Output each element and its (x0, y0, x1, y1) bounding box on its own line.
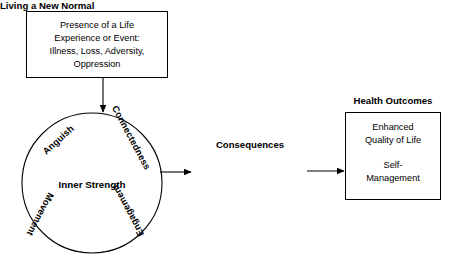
health-outcome-line-3: Self- (384, 159, 403, 172)
health-outcome-line-2: Quality of Life (365, 134, 421, 147)
inner-strength-center-label: Inner Strength (22, 179, 162, 190)
health-outcome-line-1: Enhanced (372, 121, 413, 134)
diagram-canvas: Presence of a Life Experience or Event: … (0, 0, 462, 277)
health-outcome-line-4: Management (366, 172, 420, 185)
health-outcomes-title: Health Outcomes (345, 95, 441, 106)
consequences-heading: Consequences (193, 139, 307, 150)
health-outcomes-box: Enhanced Quality of Life Self- Managemen… (345, 112, 441, 200)
